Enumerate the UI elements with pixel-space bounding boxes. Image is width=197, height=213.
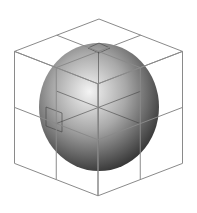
sphere-in-cube-grid [0,0,197,213]
diagram-canvas [0,0,197,213]
